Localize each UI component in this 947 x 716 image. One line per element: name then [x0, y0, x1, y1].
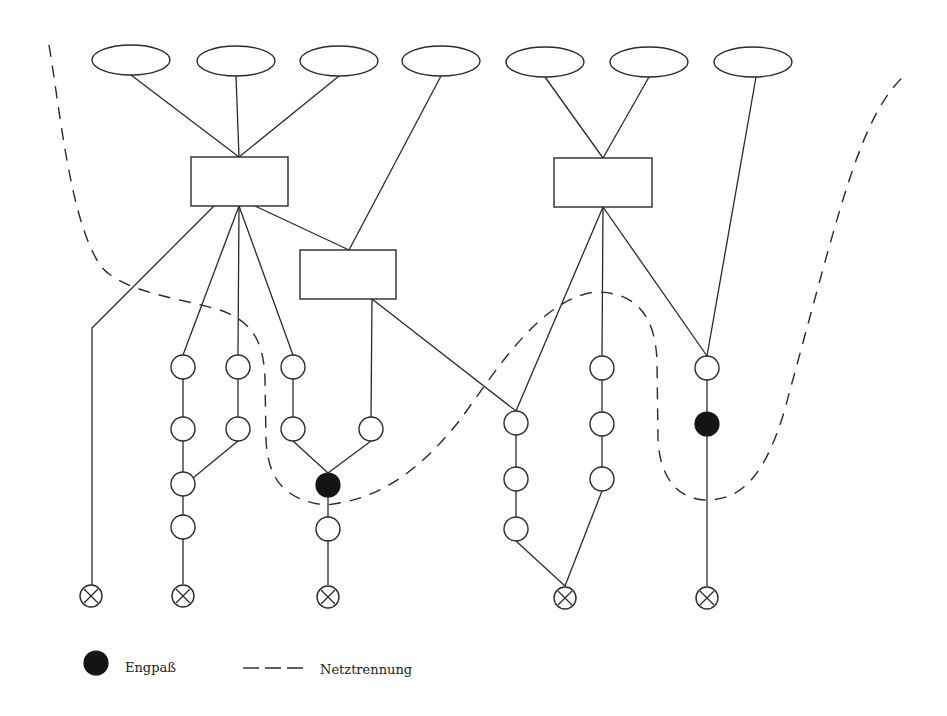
hub-node: [191, 157, 288, 206]
node-circle: [504, 467, 528, 491]
node-circle: [281, 355, 305, 379]
sink-icon: [317, 586, 339, 608]
bottleneck-icon: [695, 412, 719, 436]
node-circle: [504, 517, 528, 541]
node-circle: [590, 412, 614, 436]
source-node: [610, 47, 688, 77]
node-circle: [171, 472, 195, 496]
hub-node: [554, 158, 652, 207]
node-circle: [316, 517, 340, 541]
sink-icon: [554, 587, 576, 609]
node-circle: [171, 417, 195, 441]
sink-nodes: [80, 585, 718, 609]
legend-bottleneck-icon: [84, 651, 108, 675]
node-circle: [590, 467, 614, 491]
source-node: [402, 46, 480, 76]
source-node: [300, 46, 378, 76]
node-circle: [226, 355, 250, 379]
node-circle: [226, 417, 250, 441]
network-diagram: Engpaß Netztrennung: [0, 0, 947, 716]
legend: Engpaß Netztrennung: [84, 651, 412, 677]
node-circle: [171, 355, 195, 379]
node-circle: [171, 515, 195, 539]
hub-nodes: [191, 157, 652, 299]
sink-icon: [696, 587, 718, 609]
source-node: [714, 47, 792, 77]
legend-separation-label: Netztrennung: [320, 662, 412, 677]
source-node: [506, 47, 584, 77]
edges: [92, 75, 756, 586]
node-circle: [695, 356, 719, 380]
node-circle: [590, 356, 614, 380]
intermediate-nodes: [171, 355, 719, 541]
node-circle: [281, 417, 305, 441]
bottleneck-icon: [316, 473, 340, 497]
source-nodes: [92, 45, 792, 77]
node-circle: [359, 417, 383, 441]
legend-bottleneck-label: Engpaß: [125, 660, 176, 675]
source-node: [92, 45, 170, 75]
node-circle: [504, 411, 528, 435]
source-node: [197, 46, 275, 76]
sink-icon: [80, 585, 102, 607]
hub-node: [300, 250, 396, 299]
sink-icon: [172, 585, 194, 607]
